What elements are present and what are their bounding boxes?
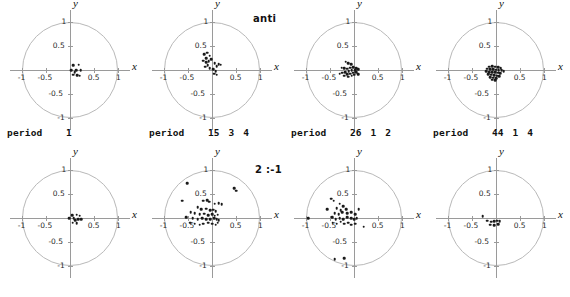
data-point [200,208,203,211]
period-value: 1 [370,127,376,138]
x-axis-tick [544,68,545,73]
x-axis-name: x [416,209,421,220]
x-axis-tick [164,216,165,221]
x-axis-tick [448,68,449,73]
data-point [235,189,238,192]
period-value: 4 [527,127,533,138]
data-point [343,222,346,225]
scatter-panel: -1-0.50.5110.5-0.5-1xyperiod2612 [284,0,426,148]
y-axis-tick [210,22,215,23]
data-point [71,214,74,217]
period-row: period4414 [430,126,568,142]
x-axis-tick-label: -1 [160,222,167,230]
period-value: 4 [243,127,249,138]
x-axis-tick [402,216,403,221]
data-point [75,222,78,225]
data-point [186,182,189,185]
data-point [346,216,349,219]
y-axis-tick-label: 0.5 [337,42,349,50]
period-values: 2612 [350,127,424,138]
y-axis-tick [210,242,215,243]
plot-area: -1-0.50.5110.5-0.5-1xy [448,170,544,266]
y-axis-tick [494,94,499,95]
data-point [216,65,219,68]
data-point [74,71,77,74]
x-axis-name: x [132,61,137,72]
scatter-panel: -1-0.50.5110.5-0.5-1xyperiod4414 [426,0,568,148]
data-point [207,214,210,217]
x-axis-tick-label: -0.5 [464,222,479,230]
y-axis-tick-label: -1 [57,262,64,270]
data-point [497,223,500,226]
x-axis-tick-label: -1 [302,222,309,230]
data-point [78,214,81,217]
period-value: 1 [66,127,72,138]
x-axis-tick [402,68,403,73]
scatter-panel: -1-0.50.5110.5-0.5-1xy [426,148,568,296]
x-axis-name: x [274,61,279,72]
data-point [193,212,196,215]
data-point [354,213,357,216]
y-axis-tick-label: -0.5 [332,90,347,98]
data-point [334,258,337,261]
x-axis-name: x [132,209,137,220]
period-values: 4414 [492,127,566,138]
data-point [331,216,334,219]
data-point [343,74,346,77]
data-point [335,222,338,225]
data-point [68,217,71,220]
y-axis-tick [68,242,73,243]
panel-row-anti: -1-0.50.5110.5-0.5-1xyperiod1-1-0.50.511… [0,0,570,148]
y-axis-tick-label: 0.5 [195,190,207,198]
data-point [335,207,338,210]
data-point [181,199,184,202]
x-axis-tick-label: 0.5 [372,74,384,82]
data-point [342,205,345,208]
plot-area: -1-0.50.5110.5-0.5-1xy [448,22,544,118]
y-axis-tick [352,46,357,47]
x-axis-tick-label: -1 [18,222,25,230]
y-axis-tick [494,22,499,23]
y-axis-tick [68,94,73,95]
data-point [220,203,223,206]
plot-area: -1-0.50.5110.5-0.5-1xy [306,22,402,118]
data-point [207,222,210,225]
y-axis-tick-label: -1 [483,114,490,122]
y-axis-name: y [499,0,504,9]
data-point [332,222,335,225]
x-axis-tick [188,216,189,221]
y-axis-tick-label: 1 [346,18,351,26]
data-point [205,208,208,211]
x-axis-tick-label: 1 [116,74,121,82]
y-axis-tick [68,118,73,119]
y-axis-tick [494,194,499,195]
x-axis-name: x [416,61,421,72]
y-axis-tick-label: -0.5 [48,90,63,98]
y-axis-tick [352,170,357,171]
y-axis-tick-label: 0.5 [479,190,491,198]
y-axis-tick-label: 1 [346,166,351,174]
x-axis-tick-label: -1 [18,74,25,82]
data-point [339,221,342,224]
y-axis-tick-label: 1 [488,166,493,174]
x-axis-tick-label: 0.5 [372,222,384,230]
x-axis-tick [472,216,473,221]
scatter-panel: -1-0.50.5110.5-0.5-1xy [142,148,284,296]
y-axis-tick [352,118,357,119]
x-axis-tick [22,68,23,73]
data-point [72,222,75,225]
data-point [338,73,341,76]
y-axis-name: y [357,0,362,9]
x-axis-tick [46,68,47,73]
y-axis-tick [68,22,73,23]
data-point [198,223,201,226]
y-axis-tick-label: -0.5 [474,238,489,246]
data-point [354,222,357,225]
x-axis-tick-label: 0.5 [88,222,100,230]
y-axis-tick-label: -0.5 [190,238,205,246]
y-axis-tick [68,46,73,47]
data-point [77,63,80,66]
data-point [208,67,211,70]
y-axis-tick [68,170,73,171]
x-axis-tick [236,68,237,73]
